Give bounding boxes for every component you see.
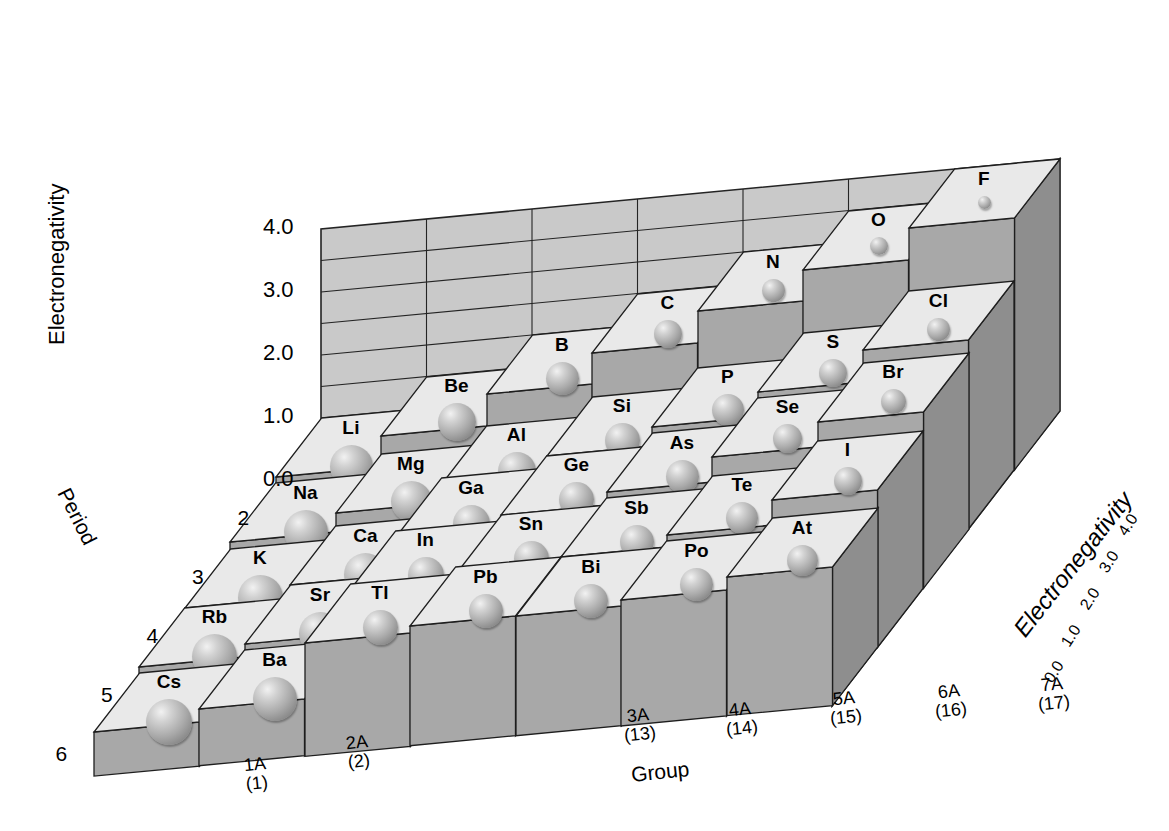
element-symbol-ba: Ba (245, 649, 305, 671)
group-tick-5a: 5A(15) (815, 686, 875, 730)
group-tick-2a: 2A(2) (328, 730, 388, 774)
element-symbol-i: I (818, 439, 878, 461)
group-tick-1a: 1A(1) (226, 752, 286, 796)
period-tick-5: 5 (101, 683, 113, 707)
element-symbol-b: B (532, 334, 592, 356)
block-front-face (410, 616, 516, 746)
element-symbol-li: Li (321, 417, 381, 439)
y-axis-tick-1-0: 1.0 (263, 403, 294, 429)
y-axis-tick-4-0: 4.0 (263, 214, 294, 240)
element-symbol-tl: Tl (350, 582, 410, 604)
element-symbol-se: Se (758, 396, 818, 418)
element-symbol-o: O (849, 209, 909, 231)
block-front-face (516, 606, 622, 736)
atom-sphere-po (680, 568, 713, 601)
atom-sphere-bi (574, 584, 608, 618)
element-symbol-ge: Ge (547, 454, 607, 476)
y-axis-tick-2-0: 2.0 (263, 340, 294, 366)
atom-sphere-pb (469, 594, 503, 628)
element-symbol-sb: Sb (607, 497, 667, 519)
element-symbol-as: As (652, 432, 712, 454)
element-symbol-po: Po (667, 540, 727, 562)
group-tick-3a: 3A(13) (609, 703, 669, 747)
period-tick-4: 4 (147, 624, 159, 648)
element-symbol-be: Be (427, 375, 487, 397)
element-symbol-ga: Ga (441, 477, 501, 499)
element-symbol-n: N (743, 251, 803, 273)
element-symbol-c: C (638, 292, 698, 314)
element-symbol-pb: Pb (456, 566, 516, 588)
atom-sphere-at (787, 545, 818, 576)
atom-sphere-c (654, 320, 682, 348)
element-symbol-te: Te (712, 474, 772, 496)
atom-sphere-tl (363, 610, 398, 645)
period-tick-2: 2 (238, 506, 250, 530)
element-symbol-k: K (230, 547, 290, 569)
element-symbol-br: Br (863, 361, 923, 383)
period-tick-3: 3 (192, 565, 204, 589)
element-symbol-cs: Cs (139, 671, 199, 693)
element-symbol-cl: Cl (909, 290, 969, 312)
y-axis-tick-0-0: 0.0 (263, 466, 294, 492)
element-symbol-at: At (772, 517, 832, 539)
atom-sphere-f (978, 196, 991, 209)
atom-sphere-i (834, 467, 862, 495)
atom-sphere-o (870, 237, 888, 255)
element-symbol-rb: Rb (185, 606, 245, 628)
y-axis-tick-3-0: 3.0 (263, 277, 294, 303)
element-symbol-f: F (954, 168, 1014, 190)
element-symbol-in: In (396, 529, 456, 551)
y-axis-title: Electronegativity (44, 184, 70, 345)
atom-sphere-ba (253, 677, 297, 721)
atom-sphere-cl (927, 318, 950, 341)
atom-sphere-br (881, 389, 906, 414)
period-tick-6: 6 (56, 742, 68, 766)
element-symbol-sn: Sn (501, 513, 561, 535)
electronegativity-3d-chart: LiBeBCNOFNaMgAlSiPSClKCaGaGeAsSeBrRbSrIn… (0, 0, 1169, 831)
group-tick-4a: 4A(14) (711, 697, 771, 741)
group-tick-6a: 6A(16) (920, 679, 980, 723)
element-symbol-si: Si (592, 395, 652, 417)
atom-sphere-n (762, 279, 785, 302)
element-symbol-bi: Bi (561, 556, 621, 578)
